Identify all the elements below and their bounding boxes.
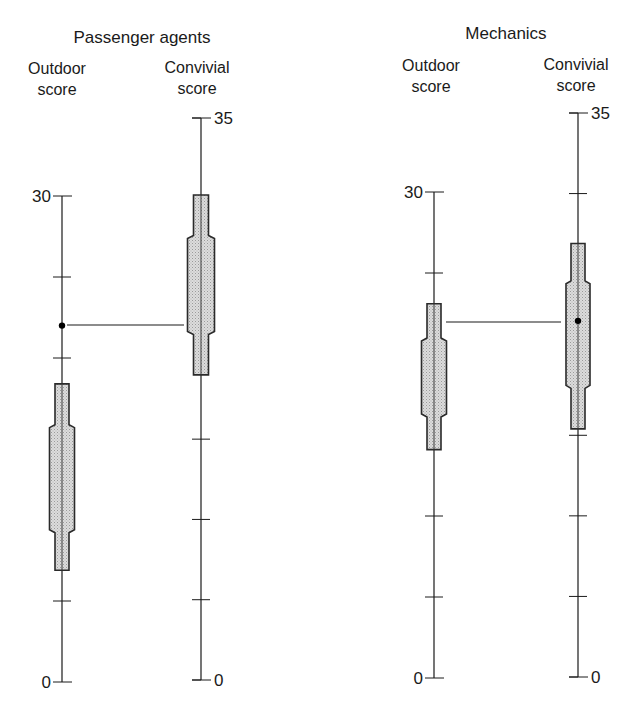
panel-title: Mechanics <box>465 24 546 43</box>
axis-title-line1: Outdoor <box>28 60 86 77</box>
axis-title-line2: score <box>556 77 595 94</box>
axis-convivial-score: Convivialscore350 <box>544 56 610 687</box>
panel-title: Passenger agents <box>73 28 210 47</box>
tick-label-min: 0 <box>214 671 223 690</box>
mean-marker-dot <box>575 318 581 324</box>
tick-label-min: 0 <box>591 668 600 687</box>
panel-passenger-agents: Passenger agents Outdoorscore300 Convivi… <box>28 28 233 692</box>
axis-outdoor-score: Outdoorscore300 <box>402 57 460 688</box>
axis-title-line1: Outdoor <box>402 57 460 74</box>
box-plot-figure: Passenger agents Outdoorscore300 Convivi… <box>0 0 635 709</box>
axis-title-line2: score <box>177 80 216 97</box>
axis-title-line1: Convivial <box>544 56 609 73</box>
axis-title-line2: score <box>411 78 450 95</box>
axis-title-line2: score <box>37 81 76 98</box>
tick-label-max: 30 <box>404 183 423 202</box>
tick-label-max: 35 <box>214 109 233 128</box>
tick-label-min: 0 <box>42 673 51 692</box>
mean-marker-dot <box>59 322 65 328</box>
panel-mechanics: Mechanics Outdoorscore300 Convivialscore… <box>402 24 610 688</box>
axis-convivial-score: Convivialscore350 <box>165 59 233 690</box>
axis-title-line1: Convivial <box>165 59 230 76</box>
axis-outdoor-score: Outdoorscore300 <box>28 60 86 692</box>
tick-label-max: 35 <box>591 104 610 123</box>
tick-label-max: 30 <box>32 187 51 206</box>
tick-label-min: 0 <box>414 669 423 688</box>
